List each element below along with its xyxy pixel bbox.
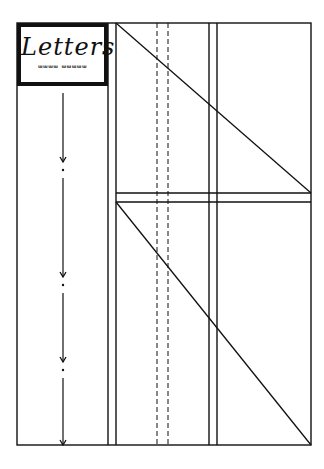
diagonal-line [116,202,311,445]
subtitle-scribble: ᵚᵚᵚᵚ ᵚᵚᵚᵚᵚ [21,64,104,72]
title-box: Letters ᵚᵚᵚᵚ ᵚᵚᵚᵚᵚ [17,23,108,86]
dot-marker [62,369,64,371]
outer-frame [17,23,311,445]
diagonal-line [116,23,311,193]
title-text: Letters [21,33,104,61]
dot-marker [62,284,64,286]
dot-marker [62,169,64,171]
layout-diagram: Letters ᵚᵚᵚᵚ ᵚᵚᵚᵚᵚ [0,0,324,469]
